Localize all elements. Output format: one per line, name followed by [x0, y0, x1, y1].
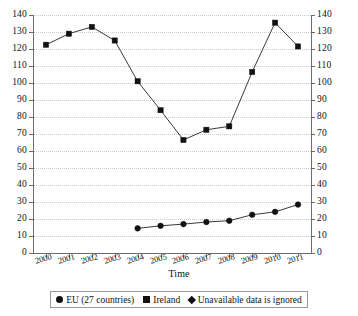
x-axis-title: Time — [0, 268, 358, 279]
legend-label-unavailable-note: Unavailable data is ignored — [198, 295, 302, 305]
x-axis-tick-label: 2006 — [171, 252, 190, 265]
circle-marker-icon — [56, 296, 63, 303]
data-point-marker — [204, 127, 209, 132]
y-axis-tick-label: 70 — [1, 129, 27, 139]
y-axis-tick-label: 60 — [1, 146, 27, 156]
legend-label-eu: EU (27 countries) — [66, 295, 134, 305]
y-axis-tick-label: 10 — [1, 231, 27, 241]
y-axis-tick-label: 100 — [317, 78, 343, 88]
plot-area: 0010102020303040405050606070708080909010… — [33, 15, 311, 253]
data-point-marker — [135, 226, 141, 232]
y-axis-tick-label: 120 — [1, 44, 27, 54]
y-axis-tick — [311, 219, 315, 220]
data-point-marker — [249, 212, 255, 218]
y-axis-tick-label: 130 — [1, 27, 27, 37]
data-point-marker — [295, 44, 300, 49]
y-axis-tick — [311, 83, 315, 84]
y-axis-tick-label: 0 — [317, 248, 343, 258]
x-axis-tick-label: 2011 — [286, 252, 305, 265]
y-axis-tick-label: 50 — [317, 163, 343, 173]
legend-item-ireland[interactable]: Ireland — [143, 295, 180, 305]
data-point-marker — [158, 108, 163, 113]
x-axis-tick-label: 2004 — [126, 252, 145, 265]
diamond-marker-icon — [188, 296, 196, 304]
data-point-marker — [226, 218, 232, 224]
y-axis-tick — [311, 151, 315, 152]
y-axis-tick-label: 120 — [317, 44, 343, 54]
data-point-marker — [227, 124, 232, 129]
y-axis-tick-label: 140 — [1, 10, 27, 20]
data-series-group — [33, 15, 311, 253]
legend-item-eu[interactable]: EU (27 countries) — [56, 295, 134, 305]
y-axis-tick-label: 100 — [1, 78, 27, 88]
y-axis-tick-label: 80 — [1, 112, 27, 122]
x-axis-tick-label: 2003 — [103, 252, 122, 265]
y-axis-tick-label: 10 — [317, 231, 343, 241]
y-axis-tick — [311, 168, 315, 169]
x-axis-tick-label: 2010 — [263, 252, 282, 265]
data-point-marker — [112, 38, 117, 43]
data-point-marker — [204, 219, 210, 225]
data-point-marker — [295, 202, 301, 208]
y-axis-tick — [311, 117, 315, 118]
series-line-ireland — [46, 23, 298, 140]
y-axis-tick-label: 130 — [317, 27, 343, 37]
x-axis-tick-label: 2005 — [149, 252, 168, 265]
y-axis-tick — [311, 66, 315, 67]
data-point-marker — [181, 221, 187, 227]
x-axis-tick-label: 2000 — [34, 252, 53, 265]
y-axis-tick-label: 60 — [317, 146, 343, 156]
y-axis-tick-label: 90 — [1, 95, 27, 105]
y-axis-tick — [311, 185, 315, 186]
chart-figure: 0010102020303040405050606070708080909010… — [0, 0, 358, 316]
y-axis-tick-label: 40 — [317, 180, 343, 190]
legend-item-unavailable-note[interactable]: Unavailable data is ignored — [189, 295, 302, 305]
x-axis-tick-label: 2002 — [80, 252, 99, 265]
data-point-marker — [66, 31, 71, 36]
data-point-marker — [89, 24, 94, 29]
y-axis-tick — [311, 100, 315, 101]
y-axis-tick-label: 90 — [317, 95, 343, 105]
data-point-marker — [43, 42, 48, 47]
chart-legend: EU (27 countries) Ireland Unavailable da… — [50, 291, 308, 308]
y-axis-tick — [311, 253, 315, 254]
x-axis-tick-label: 2001 — [57, 252, 76, 265]
x-axis-tick-label: 2007 — [194, 252, 213, 265]
y-axis-tick-label: 110 — [317, 61, 343, 71]
y-axis-tick — [311, 236, 315, 237]
y-axis-tick — [311, 134, 315, 135]
y-axis-tick — [311, 49, 315, 50]
y-axis-tick-label: 30 — [1, 197, 27, 207]
y-axis-tick — [311, 202, 315, 203]
y-axis-tick-label: 20 — [317, 214, 343, 224]
data-point-marker — [250, 69, 255, 74]
data-point-marker — [135, 79, 140, 84]
square-marker-icon — [143, 296, 150, 303]
x-axis-tick-label: 2009 — [240, 252, 259, 265]
y-axis-tick-label: 50 — [1, 163, 27, 173]
y-axis-tick-label: 110 — [1, 61, 27, 71]
y-axis-tick — [311, 32, 315, 33]
data-point-marker — [158, 223, 164, 229]
data-point-marker — [181, 137, 186, 142]
y-axis-tick — [311, 15, 315, 16]
data-point-marker — [272, 20, 277, 25]
y-axis-tick-label: 0 — [1, 248, 27, 258]
y-axis-tick-label: 140 — [317, 10, 343, 20]
y-axis-tick-label: 20 — [1, 214, 27, 224]
x-axis-tick-label: 2008 — [217, 252, 236, 265]
y-axis-tick-label: 80 — [317, 112, 343, 122]
y-axis-tick-label: 30 — [317, 197, 343, 207]
legend-label-ireland: Ireland — [153, 295, 180, 305]
y-axis-tick — [29, 253, 33, 254]
y-axis-tick-label: 40 — [1, 180, 27, 190]
y-axis-tick-label: 70 — [317, 129, 343, 139]
data-point-marker — [272, 209, 278, 215]
